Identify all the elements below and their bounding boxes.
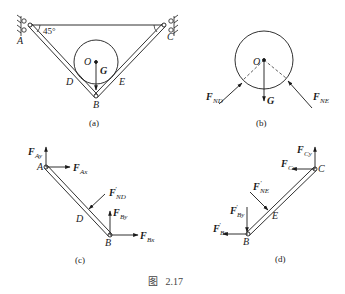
svg-text:By: By [237,211,245,219]
panel-b [219,31,312,108]
panel-c [44,147,138,237]
label-force-ax: F Ax [72,162,88,176]
label-force-bx: F Bx [139,230,155,244]
panel-b-labels: O G F ND F NE (b) [205,56,330,128]
label-point-b-c: B [105,237,111,248]
label-force-ne-prime: F ′ NE [252,179,270,195]
label-force-bx-prime: F ′ Bx [212,221,228,237]
svg-text:F: F [280,158,288,169]
label-force-cy: F Cy [296,144,313,158]
label-force-by-prime: F ′ By [229,203,245,219]
label-point-o: O [84,56,91,67]
panel-c-label: (c) [75,255,85,265]
label-center-o: O [253,56,260,67]
force-arrow-ne [288,81,312,108]
label-force-nd-prime: F ′ ND [108,185,126,201]
label-force-by: F By [112,207,128,221]
force-arrow-nd-prime [89,194,105,209]
label-point-c-d: C [318,163,325,174]
panel-a-label: (a) [89,118,99,128]
label-point-c: C [167,31,174,42]
panel-b-label: (b) [256,118,267,128]
label-point-b: B [93,99,99,110]
label-point-a-c: A [36,161,44,172]
pin-c [162,23,166,27]
svg-text:F: F [112,207,120,218]
label-force-g: G [267,95,275,106]
pin-b [94,94,98,98]
label-force-cx: F Cx [280,158,297,172]
svg-text:F: F [312,91,320,102]
force-diagram-figure: A C B D E O G 45° (a) O G F ND F NE (b) [0,0,345,294]
label-force-nd: F ND [205,91,223,105]
svg-text:Bx: Bx [220,229,228,237]
svg-text:F: F [205,91,213,102]
svg-text:F: F [139,230,147,241]
svg-text:Cy: Cy [304,150,313,158]
pin-a [28,23,32,27]
bar-cb-free-body [247,168,317,236]
label-force-ne: F NE [312,91,330,105]
svg-text:Cx: Cx [288,164,297,172]
label-force-ay: F Ay [27,146,43,160]
svg-text:NE: NE [259,187,270,195]
svg-text:Ax: Ax [79,168,88,176]
svg-text:NE: NE [319,97,330,105]
svg-text:F: F [27,146,35,157]
svg-text:ND: ND [212,97,223,105]
svg-text:F: F [72,162,80,173]
svg-text:By: By [120,213,128,221]
figure-caption: 图 2.17 [148,276,183,287]
bar-cb [95,24,166,98]
bar-ab-free-body [45,166,112,237]
dashed-line-oe [264,60,286,78]
panel-a [17,15,178,98]
label-point-b-d: B [243,236,249,247]
svg-text:′: ′ [115,185,117,193]
label-weight-g: G [100,65,108,76]
svg-text:Ay: Ay [34,152,43,160]
svg-text:ND: ND [115,193,126,201]
label-point-d-c: D [75,213,84,224]
svg-text:′: ′ [219,221,221,229]
svg-text:F: F [252,181,260,192]
label-point-d: D [65,76,74,87]
svg-text:′: ′ [236,203,238,211]
svg-text:F: F [296,144,304,155]
svg-text:′: ′ [260,179,262,187]
label-point-e-d: E [271,210,278,221]
label-point-a: A [16,35,24,46]
label-angle: 45° [43,26,56,36]
svg-text:Bx: Bx [147,236,155,244]
label-point-e: E [118,76,125,87]
panel-d-label: (d) [275,254,286,264]
support-a-hatch-icon [17,15,26,36]
panel-a-labels: A C B D E O G 45° (a) [16,26,174,128]
panel-d [223,147,317,236]
panel-d-labels: F Cy F Cx F ′ NE F ′ By F ′ Bx C B E (d) [212,144,325,264]
